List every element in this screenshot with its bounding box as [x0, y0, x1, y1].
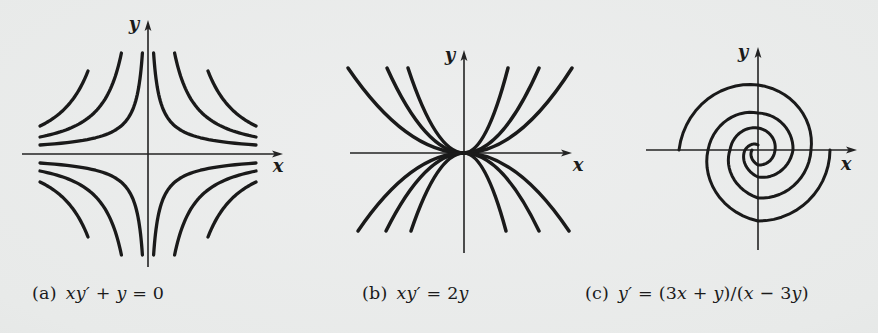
- caption-run: ): [802, 283, 809, 303]
- parabola-branch: [464, 68, 508, 153]
- hyperbola-branch: [40, 163, 142, 255]
- y-axis-label: y: [444, 44, 457, 65]
- caption-run: x: [744, 283, 754, 303]
- panel-c-curves: [679, 85, 830, 222]
- hyperbola-branch: [40, 53, 142, 145]
- hyperbola-branch: [40, 171, 121, 255]
- y-axis-label: y: [128, 13, 141, 34]
- caption-run: xy′: [66, 283, 90, 303]
- caption-panel-c: (c) y′ = (3x + y)/(x − 3y): [585, 283, 809, 303]
- parabola-branch: [464, 153, 506, 231]
- x-axis-label: x: [572, 154, 584, 175]
- caption-run: (b): [362, 283, 396, 303]
- caption-run: y: [459, 283, 469, 303]
- y-axis-label: y: [737, 41, 750, 62]
- caption-panel-a: (a) xy′ + y = 0: [32, 283, 164, 303]
- caption-panel-b: (b) xy′ = 2y: [362, 283, 469, 303]
- parabola-branch: [411, 153, 464, 231]
- caption-run: = 2: [421, 283, 459, 303]
- hyperbola-branch: [154, 53, 256, 145]
- caption-run: (a): [32, 283, 66, 303]
- panel-b-curves: [348, 68, 572, 231]
- caption-run: = (3: [632, 283, 677, 303]
- hyperbola-branch: [208, 182, 256, 237]
- caption-run: = 0: [126, 283, 164, 303]
- hyperbola-branch: [175, 53, 256, 137]
- hyperbola-branch: [40, 53, 121, 137]
- panel-b-axes: xy: [350, 44, 584, 253]
- caption-run: xy′: [396, 283, 420, 303]
- parabola-branch: [348, 68, 464, 153]
- parabola-branch: [358, 153, 464, 231]
- hyperbola-branch: [175, 171, 256, 255]
- caption-run: )/(: [724, 283, 744, 303]
- caption-run: (c): [585, 283, 618, 303]
- caption-run: y: [714, 283, 724, 303]
- caption-run: +: [687, 283, 713, 303]
- x-axis-label: x: [840, 153, 852, 174]
- caption-run: x: [677, 283, 687, 303]
- hyperbola-branch: [40, 182, 88, 237]
- caption-run: y: [116, 283, 126, 303]
- screenshot-root: xyxyxy (a) xy′ + y = 0 (b) xy′ = 2y (c) …: [0, 0, 878, 333]
- caption-run: − 3: [754, 283, 792, 303]
- caption-run: y: [792, 283, 802, 303]
- caption-run: +: [90, 283, 116, 303]
- spiral-arm: [707, 112, 830, 221]
- panel-a-axes: xy: [22, 13, 284, 267]
- caption-run: y′: [618, 283, 632, 303]
- hyperbola-branch: [208, 71, 256, 126]
- x-axis-label: x: [272, 155, 284, 176]
- parabola-branch: [464, 68, 539, 153]
- hyperbola-branch: [154, 163, 256, 255]
- hyperbola-branch: [40, 71, 88, 126]
